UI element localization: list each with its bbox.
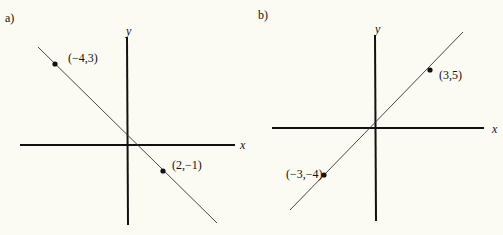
panel-a: a) y x (−4,3) (2,−1) — [5, 11, 246, 225]
panel-a-label: a) — [5, 11, 14, 25]
y-axis-label: y — [374, 22, 381, 36]
point-label: (2,−1) — [172, 158, 202, 172]
y-axis-label: y — [125, 24, 132, 38]
point-marker — [160, 168, 165, 173]
point-label: (−4,3) — [68, 51, 98, 65]
point-marker — [427, 67, 432, 72]
y-axis — [127, 37, 128, 225]
point-marker — [52, 61, 57, 66]
point-label: (3,5) — [439, 68, 462, 82]
x-axis-label: x — [239, 138, 246, 152]
panel-b-label: b) — [258, 8, 268, 22]
y-axis — [375, 35, 376, 221]
x-axis-label: x — [491, 122, 498, 136]
panel-b: b) y x (3,5) (−3,−4) — [258, 8, 498, 221]
point-label: (−3,−4) — [286, 167, 323, 181]
diagram-canvas: a) y x (−4,3) (2,−1) b) y x (3,5) (−3,−4… — [0, 0, 503, 235]
